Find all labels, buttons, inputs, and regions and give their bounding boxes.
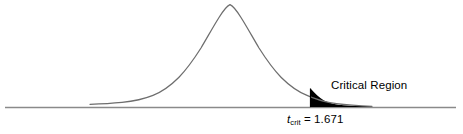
critical-region-label: Critical Region — [331, 80, 407, 92]
distribution-plot — [0, 0, 463, 134]
critical-region-chart: Critical Region tcrit = 1.671 — [0, 0, 463, 134]
critical-value-label: tcrit = 1.671 — [287, 114, 343, 126]
critical-value-number: = 1.671 — [301, 113, 344, 125]
critical-value-subscript: crit — [290, 118, 300, 127]
distribution-curve — [90, 5, 372, 107]
